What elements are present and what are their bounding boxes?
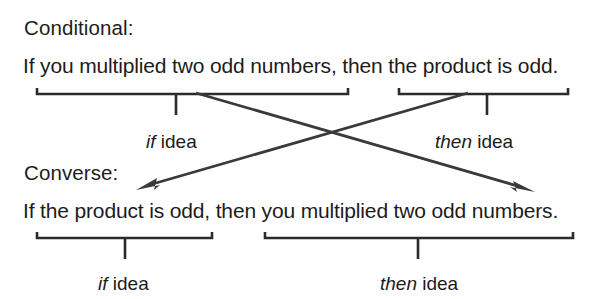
converse-if-idea-rest: idea bbox=[108, 273, 149, 294]
diagram-canvas: Conditional: If you multiplied two odd n… bbox=[0, 0, 604, 299]
conditional-then-idea-label: then idea bbox=[435, 132, 513, 151]
converse-sentence: If the product is odd, then you multipli… bbox=[23, 200, 558, 221]
converse-then-idea-label: then idea bbox=[380, 274, 458, 293]
conditional-if-bracket bbox=[37, 88, 348, 94]
conditional-if-idea-label: if idea bbox=[146, 132, 197, 151]
if-to-then-arrow-head bbox=[510, 181, 535, 192]
diagram-lines-layer bbox=[0, 0, 604, 299]
conditional-heading: Conditional: bbox=[24, 18, 133, 39]
converse-heading: Converse: bbox=[24, 163, 118, 184]
converse-if-keyword: if bbox=[98, 273, 108, 294]
converse-then-bracket bbox=[265, 232, 573, 238]
conditional-sentence: If you multiplied two odd numbers, then … bbox=[23, 55, 558, 76]
then-to-if-arrow-head bbox=[136, 178, 160, 190]
conditional-if-keyword: if bbox=[146, 131, 156, 152]
converse-if-bracket bbox=[37, 232, 212, 238]
converse-if-idea-label: if idea bbox=[98, 274, 149, 293]
converse-then-idea-rest: idea bbox=[417, 273, 458, 294]
conditional-then-keyword: then bbox=[435, 131, 472, 152]
conditional-then-bracket bbox=[399, 88, 568, 94]
conditional-then-idea-rest: idea bbox=[472, 131, 513, 152]
converse-then-keyword: then bbox=[380, 273, 417, 294]
conditional-if-idea-rest: idea bbox=[156, 131, 197, 152]
